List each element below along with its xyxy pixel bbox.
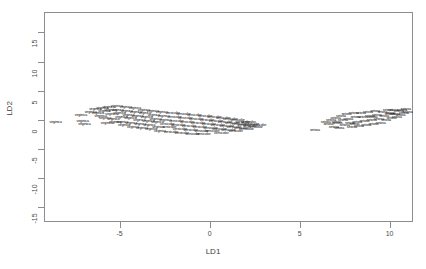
y-tick-label: 0 [31,119,38,143]
data-point-label: virginica [78,124,90,128]
y-tick-label: 10 [31,61,38,85]
data-point-label: setosa [368,116,378,120]
y-tick-label: -5 [31,149,38,173]
data-point-label: setosa [403,111,413,115]
data-point-label: setosa [310,129,320,133]
data-point-label: setosa [386,112,396,116]
y-tick-label: -10 [31,178,38,202]
x-tick-mark [210,222,211,228]
y-tick-label: 5 [31,90,38,114]
y-tick-label: 15 [31,32,38,56]
x-tick-mark [120,222,121,228]
data-point-label: virginica [50,121,62,125]
data-point-label: setosa [376,122,386,126]
x-tick-mark [390,222,391,228]
x-tick-mark [300,222,301,228]
x-tick-label: 10 [375,230,405,237]
lda-scatter-plot: 151050-5-10-15-50510 virginicavirginicav… [0,0,426,269]
y-axis-title: LD2 [5,94,14,124]
x-axis-title: LD1 [0,247,426,256]
x-tick-label: 5 [285,230,315,237]
data-point-label: setosa [350,124,360,128]
data-points-layer: virginicavirginicavirginicavirginicavirg… [44,12,413,222]
y-tick-label: -15 [31,207,38,231]
x-tick-label: -5 [105,230,135,237]
data-point-label: versicolor [252,124,266,128]
data-point-label: setosa [332,121,342,125]
x-tick-label: 0 [195,230,225,237]
